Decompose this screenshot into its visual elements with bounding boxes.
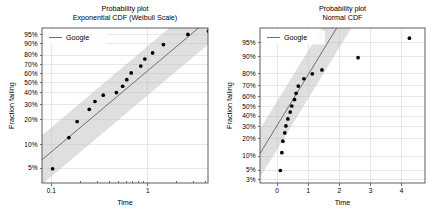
data-point [162,43,166,47]
data-point [186,33,190,37]
data-point [296,84,300,88]
y-tick-label: 20% [242,135,255,142]
data-point [294,91,298,95]
data-point [290,104,294,108]
data-point [93,100,97,104]
data-point [284,124,288,128]
y-tick-label: 40% [242,112,255,119]
x-axis-label-left: Time [117,198,133,207]
x-tick-label: 2 [338,187,342,194]
y-axis-label-left: Fraction failing [7,82,16,129]
chart-title-right: Probability plot [319,4,366,13]
data-point [151,51,155,55]
y-tick-label: 50% [242,103,255,110]
data-point [356,56,360,60]
chart-subtitle-left: Exponential CDF (Weibull Scale) [73,13,178,22]
x-tick-label: 4 [400,187,404,194]
probability-plot-figure: Probability plotExponential CDF (Weibull… [0,0,433,216]
chart-title-left: Probability plot [101,4,148,13]
data-point [320,68,324,72]
chart-right: Probability plotNormal CDF3%5%10%20%30%4… [216,0,433,216]
data-point [67,136,71,140]
y-tick-label: 50% [24,79,37,86]
confidence-band-left [34,0,216,191]
data-point [139,64,143,68]
y-axis-label-right: Fraction failing [225,82,234,129]
x-tick-label: 3 [369,187,373,194]
legend-right[interactable]: Google [263,31,325,45]
data-point [75,120,79,124]
x-tick-label: 1 [146,187,150,194]
y-tick-label: 5% [246,166,256,173]
data-point [278,169,282,173]
chart-panel-exponential: Probability plotExponential CDF (Weibull… [0,0,216,216]
chart-left: Probability plotExponential CDF (Weibull… [0,0,216,216]
confidence-band-right [252,0,433,191]
y-tick-label: 10% [24,141,37,148]
y-tick-label: 60% [242,93,255,100]
y-tick-label: 95% [24,31,37,38]
x-tick-label: 1 [306,187,310,194]
data-point [288,110,292,114]
data-point [286,117,290,121]
legend-left[interactable]: Google [45,31,107,45]
y-tick-label: 90% [242,53,255,60]
data-point [101,93,105,97]
data-point [87,108,91,112]
data-point [125,78,129,82]
chart-panel-normal: Probability plotNormal CDF3%5%10%20%30%4… [216,0,433,216]
y-tick-label: 30% [24,101,37,108]
legend-label: Google [284,33,307,42]
data-point [129,71,133,75]
data-point [51,167,55,171]
y-axis-right: 3%5%10%20%30%40%50%60%70%80%90%95% [242,39,260,183]
y-tick-label: 90% [24,40,37,47]
chart-subtitle-right: Normal CDF [323,13,364,22]
x-tick-label: 0.1 [47,187,56,194]
legend-label: Google [66,33,89,42]
data-point [280,151,284,155]
data-point [143,57,147,61]
y-tick-label: 30% [242,123,255,130]
data-point [207,29,211,33]
data-point [121,84,125,88]
y-tick-label: 80% [242,70,255,77]
y-axis-left: 5%10%20%30%40%50%60%70%80%90%95% [24,31,42,171]
y-tick-label: 5% [28,164,38,171]
x-axis-label-right: Time [335,198,351,207]
data-point [283,131,287,135]
x-tick-label: 0 [275,187,279,194]
y-tick-label: 40% [24,89,37,96]
x-axis-left: 0.11 [47,183,150,194]
y-tick-label: 80% [24,51,37,58]
y-tick-label: 60% [24,70,37,77]
y-tick-label: 70% [24,61,37,68]
data-point [310,72,314,76]
y-tick-label: 70% [242,82,255,89]
y-tick-label: 3% [246,176,256,183]
x-axis-right: 01234 [275,183,404,194]
y-tick-label: 10% [242,152,255,159]
y-tick-label: 95% [242,39,255,46]
data-point [293,98,297,102]
data-point [115,91,119,95]
data-point [408,36,412,40]
y-tick-label: 20% [24,116,37,123]
data-point [302,77,306,81]
data-point [281,139,285,143]
